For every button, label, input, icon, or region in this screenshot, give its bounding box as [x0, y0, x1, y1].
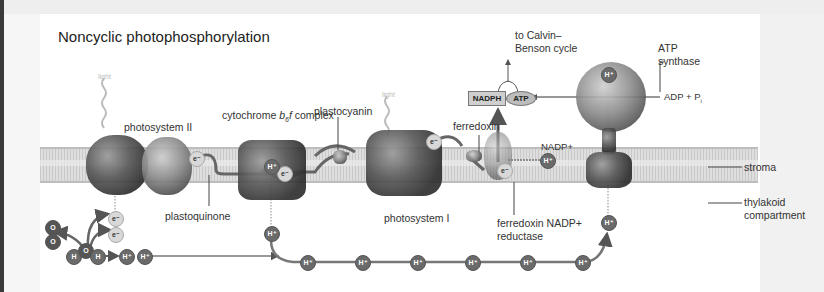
calvin-label-2: Benson cycle: [515, 42, 577, 54]
plastocyanin-label: plastocyanin: [314, 105, 372, 117]
electron-bubble: e⁻: [108, 211, 124, 227]
cytochrome-prefix: cytochrome: [222, 109, 279, 121]
proton-bubble: H⁺: [601, 215, 617, 231]
proton-bubble: H⁺: [137, 249, 153, 265]
nadph-box: NADPH: [468, 91, 506, 106]
hydrogen-bubble: H: [90, 249, 106, 265]
atp-synthase-label-1: ATP: [658, 42, 678, 54]
stroma-label: stroma: [744, 161, 776, 173]
proton-bubble: H⁺: [355, 255, 371, 271]
proton-bubble: H⁺: [601, 67, 617, 83]
plastoquinone-label: plastoquinone: [165, 210, 230, 222]
ferredoxin-reductase-label-1: ferredoxin NADP+: [497, 217, 582, 229]
thylakoid-label-2: compartment: [744, 209, 805, 221]
proton-bubble: H⁺: [119, 249, 135, 265]
photosystem-ii-complex-b: [142, 137, 192, 195]
adp-pi-text: ADP + P: [664, 91, 701, 102]
proton-bubble: H⁺: [264, 226, 280, 242]
thylakoid-label-1: thylakoid: [744, 196, 785, 208]
atp-synthase-base: [586, 152, 632, 188]
plastocyanin-protein: [333, 150, 347, 164]
ferredoxin-reductase-label-2: reductase: [497, 230, 543, 242]
atp-synthase-label-2: synthase: [658, 55, 700, 67]
electron-bubble: e⁻: [189, 151, 205, 167]
proton-bubble: H⁺: [465, 255, 481, 271]
ferredoxin-protein: [466, 150, 482, 162]
proton-bubble: H⁺: [300, 255, 316, 271]
photosystem-ii-label: photosystem II: [124, 121, 192, 133]
photosystem-i-label: photosystem I: [384, 212, 449, 224]
atp-oval: ATP: [506, 91, 536, 106]
photosystem-ii-complex: [86, 135, 148, 195]
light-label-1: light: [98, 71, 111, 83]
electron-bubble: e⁻: [497, 163, 513, 179]
adp-pi-sub: i: [701, 98, 702, 104]
oxygen-bubble: O: [45, 234, 61, 250]
light-label-2: light: [382, 89, 395, 101]
electron-bubble: e⁻: [426, 134, 442, 150]
ferredoxin-label: ferredoxin: [453, 120, 500, 132]
calvin-label-1: to Calvin–: [515, 29, 562, 41]
proton-bubble: H⁺: [540, 153, 556, 169]
proton-bubble: H⁺: [575, 255, 591, 271]
adp-pi-label: ADP + Pi: [664, 91, 702, 107]
proton-bubble: H⁺: [520, 255, 536, 271]
proton-bubble: H⁺: [410, 255, 426, 271]
nadp-plus-label: NADP+: [541, 141, 573, 153]
atp-synthase-stalk: [602, 128, 616, 154]
proton-bubble: H⁺: [264, 159, 280, 175]
electron-bubble: e⁻: [108, 227, 124, 243]
